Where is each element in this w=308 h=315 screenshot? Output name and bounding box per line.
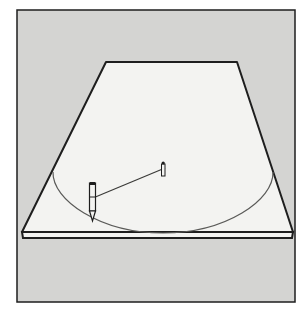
figure-svg <box>0 0 308 315</box>
center-pin <box>162 161 166 176</box>
pencil <box>90 182 96 221</box>
figure: Illustration: drawing an ellipse on a bo… <box>0 0 308 315</box>
